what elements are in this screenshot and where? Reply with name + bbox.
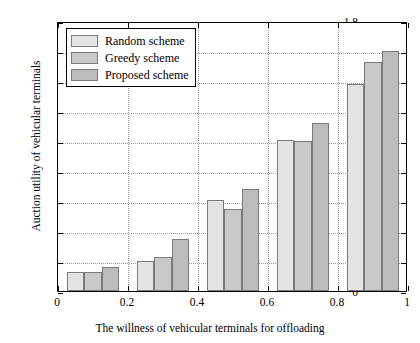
bar bbox=[102, 267, 120, 291]
legend-label: Greedy scheme bbox=[105, 52, 179, 64]
x-tick bbox=[408, 286, 409, 291]
bar bbox=[277, 140, 295, 292]
legend-swatch bbox=[71, 52, 98, 64]
bar bbox=[67, 272, 85, 292]
bar bbox=[154, 257, 172, 292]
plot-area: Random schemeGreedy schemeProposed schem… bbox=[57, 22, 407, 292]
bar bbox=[364, 62, 382, 292]
bar bbox=[294, 141, 312, 291]
y-axis-label: Auction utility of vehicular terminals bbox=[30, 26, 42, 266]
bar bbox=[207, 200, 225, 292]
legend-label: Proposed scheme bbox=[105, 69, 189, 81]
bar bbox=[242, 189, 260, 291]
x-tick-label: 0.2 bbox=[120, 296, 134, 308]
x-tick-label: 0.4 bbox=[190, 296, 204, 308]
x-tick-label: 0.8 bbox=[330, 296, 344, 308]
bar bbox=[224, 209, 242, 292]
x-tick bbox=[408, 23, 409, 28]
x-tick-label: 0 bbox=[54, 296, 60, 308]
legend-label: Random scheme bbox=[105, 35, 185, 47]
legend-item: Proposed scheme bbox=[71, 66, 189, 83]
x-tick-label: 1 bbox=[404, 296, 410, 308]
x-tick-label: 0.6 bbox=[260, 296, 274, 308]
bar bbox=[382, 51, 400, 291]
bar bbox=[172, 239, 190, 291]
x-axis-label: The willness of vehicular terminals for … bbox=[0, 322, 420, 334]
y-tick bbox=[58, 293, 63, 294]
bar bbox=[84, 272, 102, 292]
bar bbox=[347, 84, 365, 291]
legend-item: Random scheme bbox=[71, 32, 189, 49]
y-tick bbox=[401, 293, 406, 294]
legend: Random schemeGreedy schemeProposed schem… bbox=[66, 28, 196, 87]
bar bbox=[312, 123, 330, 291]
legend-swatch bbox=[71, 69, 98, 81]
bar bbox=[137, 261, 155, 291]
legend-swatch bbox=[71, 35, 98, 47]
figure: Auction utility of vehicular terminals T… bbox=[0, 0, 420, 343]
legend-item: Greedy scheme bbox=[71, 49, 189, 66]
